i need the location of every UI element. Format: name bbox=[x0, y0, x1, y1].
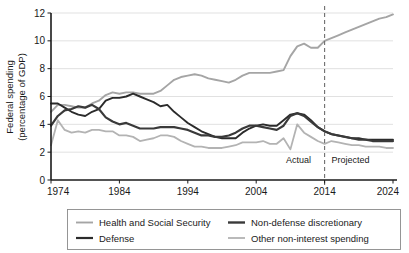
federal-spending-line-chart: 024681012 197419841994200420142024 Actua… bbox=[0, 0, 409, 253]
y-tick-label-8: 8 bbox=[39, 63, 45, 74]
y-tick-label-2: 2 bbox=[39, 147, 45, 158]
chart-annotations: ActualProjected bbox=[286, 155, 370, 165]
y-tick-label-12: 12 bbox=[34, 8, 46, 19]
y-tick-label-0: 0 bbox=[39, 175, 45, 186]
x-tick-label-1974: 1974 bbox=[47, 186, 70, 197]
legend-label-other-non-interest-spending: Other non-interest spending bbox=[251, 233, 369, 244]
x-tick-label-2014: 2014 bbox=[313, 186, 336, 197]
y-tick-label-4: 4 bbox=[39, 119, 45, 130]
series-line-health-and-social-security bbox=[51, 14, 393, 111]
actual-label: Actual bbox=[286, 155, 311, 165]
series-lines bbox=[51, 14, 393, 149]
y-tick-label-10: 10 bbox=[34, 35, 46, 46]
legend-label-health-and-social-security: Health and Social Security bbox=[99, 217, 211, 228]
y-axis-title-line2: (percentage of GDP) bbox=[16, 53, 27, 141]
x-tick-label-1984: 1984 bbox=[108, 186, 131, 197]
y-axis-tick-labels: 024681012 bbox=[34, 8, 46, 186]
x-axis-tick-labels: 197419841994200420142024 bbox=[47, 186, 399, 197]
y-tick-label-6: 6 bbox=[39, 91, 45, 102]
series-line-defense bbox=[51, 94, 393, 140]
x-tick-label-2024: 2024 bbox=[377, 186, 400, 197]
projected-label: Projected bbox=[331, 155, 369, 165]
y-axis-title: Federal spending (percentage of GDP) bbox=[4, 53, 27, 141]
series-line-non-defense-discretionary bbox=[51, 105, 393, 141]
chart-legend: Health and Social SecurityNon-defense di… bbox=[68, 210, 401, 250]
chart-figure: 024681012 197419841994200420142024 Actua… bbox=[0, 0, 409, 253]
y-axis-title-line1: Federal spending bbox=[4, 60, 15, 133]
legend-label-defense: Defense bbox=[99, 233, 134, 244]
x-tick-label-2004: 2004 bbox=[245, 186, 268, 197]
x-tick-label-1994: 1994 bbox=[177, 186, 200, 197]
legend-label-non-defense-discretionary: Non-defense discretionary bbox=[251, 217, 362, 228]
